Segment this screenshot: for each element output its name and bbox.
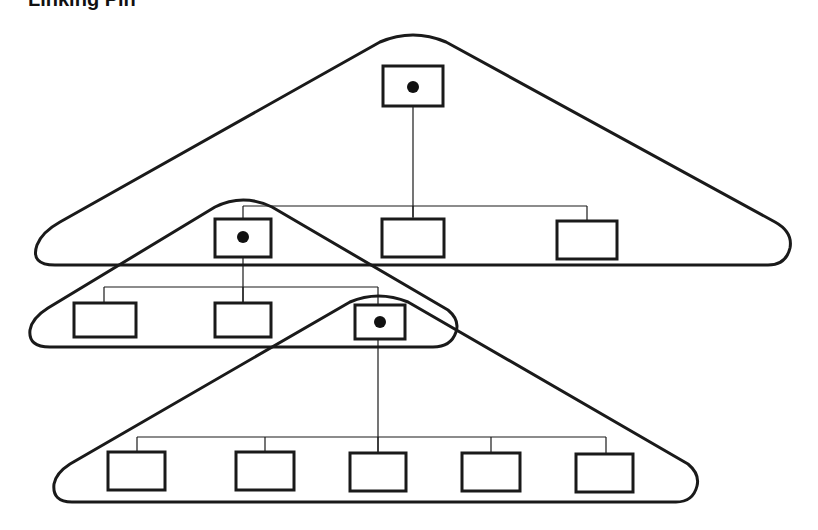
linking-pin-dot [374,316,386,328]
bottom-unit-1 [108,452,165,490]
top-group-connectors [243,106,587,221]
lower-center-unit [215,303,271,337]
bottom-unit-4 [462,453,520,491]
bottom-group-connectors [137,339,606,454]
linking-pin-diagram [0,0,818,530]
mid-center-unit [382,219,444,257]
bottom-unit-5 [576,454,633,492]
lower-right-unit [355,305,405,339]
lower-left-unit [74,303,136,337]
mid-left-unit [215,219,271,257]
linking-pin-dot [237,231,249,243]
top-unit [383,66,443,106]
linking-pin-dot [407,81,419,93]
bottom-unit-2 [236,452,294,490]
mid-right-unit [557,221,617,259]
bottom-unit-3 [350,453,406,491]
